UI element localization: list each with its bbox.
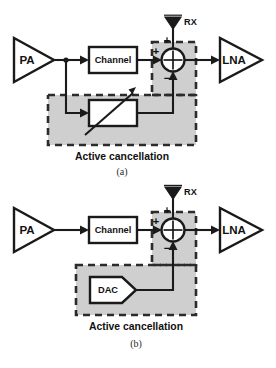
panel-b-sum-sign-bottom: − bbox=[164, 242, 170, 254]
panel-a-caption: Active cancellation bbox=[75, 151, 169, 162]
panel-a-lna-label: LNA bbox=[222, 54, 246, 66]
panel-a-sum-sign-bottom: − bbox=[164, 72, 170, 84]
panel-b-sum-sign-left: + bbox=[153, 215, 159, 227]
panel-b-rx-label: RX bbox=[184, 187, 198, 197]
panel-a-diagram: RX PA Channel + + bbox=[0, 0, 276, 184]
panel-b-sum-sign-top: + bbox=[164, 204, 170, 216]
panel-b-pa-output-wire bbox=[53, 226, 89, 235]
panel-b-pa-block: PA bbox=[14, 208, 54, 252]
panel-b-letter: (b) bbox=[130, 338, 142, 350]
panel-a-sum-sign-left: + bbox=[153, 45, 159, 57]
panel-a-channel-label: Channel bbox=[95, 55, 132, 65]
panel-b-diagram: RX PA Channel + + − bbox=[0, 184, 276, 368]
panel-b-summing-node bbox=[162, 219, 185, 242]
panel-a-channel-block: Channel bbox=[89, 47, 137, 73]
panel-b-pa-label: PA bbox=[19, 224, 34, 236]
panel-b-lna-block: LNA bbox=[220, 208, 262, 252]
panel-a-lna-block: LNA bbox=[220, 38, 262, 82]
panel-b-lna-label: LNA bbox=[222, 224, 246, 236]
panel-a-pa-block: PA bbox=[14, 38, 54, 82]
panel-a-sum-sign-top: + bbox=[164, 34, 170, 46]
panel-b-caption: Active cancellation bbox=[89, 321, 183, 332]
panel-a-pa-label: PA bbox=[19, 54, 34, 66]
panel-b-dac-label: DAC bbox=[98, 285, 118, 295]
panel-a-rx-label: RX bbox=[184, 17, 198, 27]
panel-a-summing-node bbox=[162, 49, 185, 72]
panel-a-channel-input-arrow bbox=[80, 56, 89, 65]
figure-root: RX PA Channel + + bbox=[0, 0, 276, 368]
panel-b-channel-block: Channel bbox=[89, 217, 137, 243]
panel-a-letter: (a) bbox=[116, 166, 127, 178]
panel-b-channel-label: Channel bbox=[95, 225, 132, 235]
